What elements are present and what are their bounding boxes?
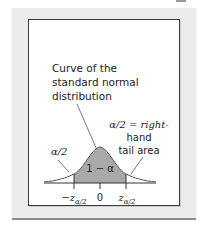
right-tail-leader-line bbox=[131, 157, 143, 174]
center-area-label: 1 − α bbox=[86, 163, 114, 174]
curve-label-line-3: distribution bbox=[52, 90, 112, 102]
tick-label-pos-z: zα/2 bbox=[118, 192, 136, 206]
curve-label-line-1: Curve of the bbox=[52, 62, 117, 74]
right-tail-label-line-3: tail area bbox=[118, 145, 159, 156]
right-tail-label-line-2: hand bbox=[126, 132, 151, 143]
curve-leader-line bbox=[77, 104, 97, 150]
normal-curve-diagram: Curve of the standard normal distributio… bbox=[0, 0, 202, 232]
left-tail-leader-line bbox=[58, 160, 69, 172]
left-tail-label: α/2 bbox=[51, 146, 67, 157]
tick-label-neg-z: −zα/2 bbox=[61, 192, 87, 206]
tick-label-zero: 0 bbox=[97, 192, 103, 203]
right-tail-label-line-1: α/2 = right- bbox=[109, 119, 169, 130]
curve-label-line-2: standard normal bbox=[52, 76, 139, 88]
